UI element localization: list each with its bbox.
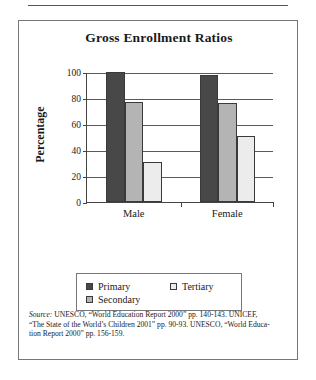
- y-tick-mark: [83, 203, 87, 204]
- legend-row: Primary Tertiary: [86, 280, 236, 293]
- legend-item-secondary: Secondary: [86, 294, 170, 305]
- source-note-line-2: “The State of the World’s Children 2001”…: [29, 320, 270, 329]
- legend-row: Secondary: [86, 293, 236, 306]
- chart-title: Gross Enrollment Ratios: [19, 30, 299, 46]
- figure-frame: Gross Enrollment Ratios Percentage 02040…: [18, 20, 298, 360]
- legend-label-tertiary: Tertiary: [182, 281, 214, 292]
- legend-item-primary: Primary: [86, 281, 170, 292]
- chart-legend: Primary Tertiary Secondary: [76, 273, 242, 311]
- legend-swatch-primary: [86, 283, 93, 290]
- y-axis-title: Percentage: [33, 80, 48, 190]
- plot-container: Percentage 020406080100 MaleFemale: [19, 65, 299, 245]
- bars-layer: [87, 73, 273, 202]
- y-tick-label: 0: [76, 198, 81, 208]
- legend-swatch-secondary: [86, 296, 93, 303]
- source-note-prefix: Source:: [29, 310, 52, 319]
- x-tick-label-male: Male: [123, 208, 145, 219]
- source-note-line-1: UNESCO, “World Education Report 2000” pp…: [52, 310, 257, 319]
- top-horizontal-rule: [28, 5, 288, 6]
- x-tick-mark: [273, 202, 274, 207]
- bar-primary-female: [200, 75, 219, 202]
- legend-label-primary: Primary: [98, 281, 130, 292]
- y-tick-label: 20: [72, 172, 82, 182]
- legend-item-tertiary: Tertiary: [170, 281, 214, 292]
- bar-tertiary-female: [237, 136, 256, 202]
- bar-secondary-male: [125, 102, 144, 202]
- bar-secondary-female: [218, 103, 237, 202]
- x-tick-mark: [181, 202, 182, 207]
- plot-area: 020406080100 MaleFemale: [86, 73, 273, 203]
- x-tick-label-female: Female: [212, 208, 243, 219]
- source-note: Source: UNESCO, “World Education Report …: [29, 310, 291, 339]
- y-tick-label: 100: [67, 68, 81, 78]
- bar-tertiary-male: [143, 162, 162, 202]
- source-note-line-3: tion Report 2000” pp. 156-159.: [29, 329, 124, 338]
- y-tick-label: 40: [72, 146, 82, 156]
- legend-swatch-tertiary: [170, 283, 177, 290]
- bar-primary-male: [106, 72, 125, 202]
- legend-grid: Primary Tertiary Secondary: [86, 280, 236, 306]
- y-tick-label: 60: [72, 120, 82, 130]
- legend-label-secondary: Secondary: [98, 294, 140, 305]
- y-tick-label: 80: [72, 94, 82, 104]
